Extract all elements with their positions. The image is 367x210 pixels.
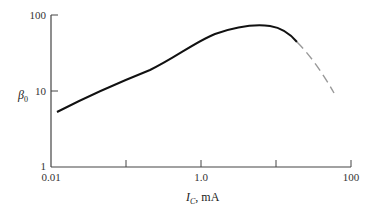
x-tick-label-1: 1.0 (194, 171, 208, 183)
y-axis-title: β0 (17, 88, 28, 104)
beta-vs-ic-chart: 100 10 1 0.01 1.0 100 β0 IC, mA (0, 0, 367, 210)
y-tick-label-100: 100 (30, 9, 47, 21)
x-tick-label-100: 100 (343, 171, 360, 183)
x-axis-title: IC, mA (185, 190, 220, 206)
y-tick-label-10: 10 (35, 85, 47, 97)
x-tick-label-0.01: 0.01 (41, 171, 60, 183)
beta-curve-solid (57, 25, 297, 112)
beta-curve-dashed (297, 42, 334, 93)
